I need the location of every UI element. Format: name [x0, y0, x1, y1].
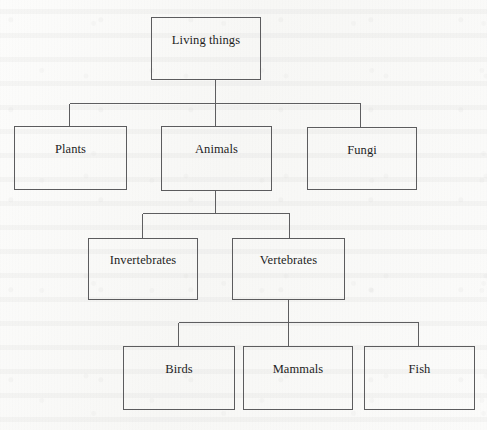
node-label-animals: Animals [162, 127, 271, 156]
node-label-birds: Birds [124, 347, 234, 376]
node-living-things[interactable]: Living things [151, 17, 261, 80]
node-fungi[interactable]: Fungi [307, 127, 417, 190]
node-mammals[interactable]: Mammals [243, 346, 353, 410]
node-fish[interactable]: Fish [364, 346, 475, 410]
node-birds[interactable]: Birds [123, 346, 235, 410]
node-plants[interactable]: Plants [14, 126, 127, 190]
node-vertebrates[interactable]: Vertebrates [232, 238, 345, 300]
scanned-page: Living things Plants Animals Fungi Inver… [0, 0, 487, 430]
node-label-fish: Fish [365, 347, 474, 376]
node-invertebrates[interactable]: Invertebrates [88, 238, 198, 300]
node-label-vertebrates: Vertebrates [233, 239, 344, 267]
node-label-plants: Plants [15, 127, 126, 156]
node-label-invertebrates: Invertebrates [89, 239, 197, 267]
node-animals[interactable]: Animals [161, 126, 272, 191]
node-label-fungi: Fungi [308, 128, 416, 157]
node-label-mammals: Mammals [244, 347, 352, 376]
node-label-living-things: Living things [152, 18, 260, 47]
